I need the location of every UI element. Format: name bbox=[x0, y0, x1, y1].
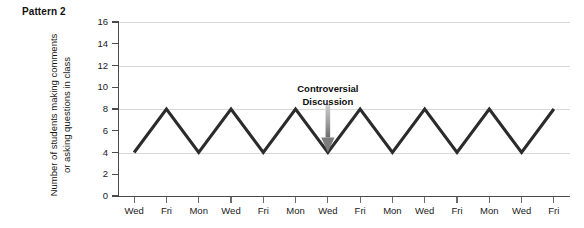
y-tick-mark-16 bbox=[112, 21, 118, 22]
y-tick-label-6: 6 bbox=[66, 126, 108, 136]
chart-figure: Pattern 2 Number of students making comm… bbox=[0, 0, 584, 228]
y-tick-mark-6 bbox=[112, 130, 118, 131]
plot-area bbox=[118, 22, 570, 196]
x-tick-label-13: Fri bbox=[531, 206, 577, 216]
x-axis-line bbox=[118, 196, 570, 197]
x-tick-mark-13 bbox=[553, 197, 554, 203]
x-tick-mark-11 bbox=[489, 197, 490, 203]
x-tick-mark-7 bbox=[360, 197, 361, 203]
y-tick-mark-8 bbox=[112, 108, 118, 109]
x-tick-mark-0 bbox=[134, 197, 135, 203]
y-tick-label-16: 16 bbox=[66, 17, 108, 27]
annotation-controversial-discussion: Controversial Discussion bbox=[266, 83, 390, 108]
annotation-line-2: Discussion bbox=[266, 96, 390, 109]
y-tick-mark-14 bbox=[112, 43, 118, 44]
y-axis-line bbox=[118, 21, 119, 197]
y-axis-title: Number of students making comments or as… bbox=[45, 20, 75, 210]
y-tick-label-8: 8 bbox=[66, 104, 108, 114]
y-tick-mark-4 bbox=[112, 152, 118, 153]
x-tick-mark-6 bbox=[327, 197, 328, 203]
y-tick-mark-12 bbox=[112, 65, 118, 66]
y-tick-label-2: 2 bbox=[66, 169, 108, 179]
annotation-line-1: Controversial bbox=[266, 83, 390, 96]
page-title: Pattern 2 bbox=[22, 6, 66, 17]
x-tick-mark-1 bbox=[166, 197, 167, 203]
gridline-8 bbox=[118, 109, 570, 110]
x-tick-mark-10 bbox=[456, 197, 457, 203]
gridline-12 bbox=[118, 66, 570, 67]
y-tick-label-12: 12 bbox=[66, 61, 108, 71]
y-tick-mark-2 bbox=[112, 174, 118, 175]
gridline-4 bbox=[118, 153, 570, 154]
y-tick-mark-10 bbox=[112, 87, 118, 88]
x-tick-mark-2 bbox=[198, 197, 199, 203]
x-tick-mark-5 bbox=[295, 197, 296, 203]
y-tick-mark-0 bbox=[112, 195, 118, 196]
y-axis-title-line-1: Number of students making comments bbox=[47, 34, 61, 197]
y-tick-label-4: 4 bbox=[66, 148, 108, 158]
x-tick-mark-9 bbox=[424, 197, 425, 203]
x-tick-mark-8 bbox=[392, 197, 393, 203]
x-tick-mark-3 bbox=[230, 197, 231, 203]
x-tick-mark-4 bbox=[263, 197, 264, 203]
y-tick-label-14: 14 bbox=[66, 39, 108, 49]
y-tick-label-10: 10 bbox=[66, 82, 108, 92]
y-tick-label-0: 0 bbox=[66, 191, 108, 201]
gridline-16 bbox=[118, 22, 570, 23]
x-tick-mark-12 bbox=[521, 197, 522, 203]
